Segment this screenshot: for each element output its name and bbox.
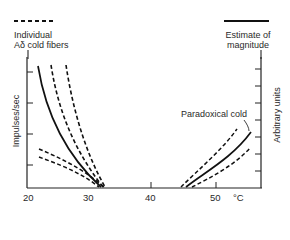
x-unit-label: °C (233, 192, 244, 203)
legend-solid-label: Estimate of magnitude (222, 30, 274, 50)
x-tick-20: 20 (23, 192, 34, 203)
paradoxical-cold-label: Paradoxical cold (181, 109, 247, 119)
legend-dashed-label-line2: Aδ cold fibers (14, 40, 69, 50)
cold-fiber-steep-outer (66, 65, 105, 187)
x-tick-30: 30 (83, 192, 94, 203)
x-tick-40: 40 (145, 192, 156, 203)
x-tick-50: 50 (210, 192, 221, 203)
annotation-pointer (244, 120, 249, 131)
paradoxical-curves (181, 120, 251, 187)
right-axis-ticks (255, 69, 261, 171)
legend-solid-label-line2: magnitude (222, 40, 274, 50)
left-axis-ticks (27, 72, 33, 165)
legend-dashed-label-line1: Individual (14, 30, 69, 40)
cold-fiber-shallow-lower (39, 157, 99, 187)
estimate-paradoxical (186, 132, 251, 187)
legend-dashed-label: Individual Aδ cold fibers (14, 30, 69, 50)
right-axis-title: Arbitrary units (272, 80, 282, 150)
paradoxical-fiber-upper (181, 129, 237, 187)
legend-solid-label-line1: Estimate of (222, 30, 274, 40)
left-axis-title: Impulses/sec (11, 91, 21, 151)
cold-curves (38, 65, 105, 187)
